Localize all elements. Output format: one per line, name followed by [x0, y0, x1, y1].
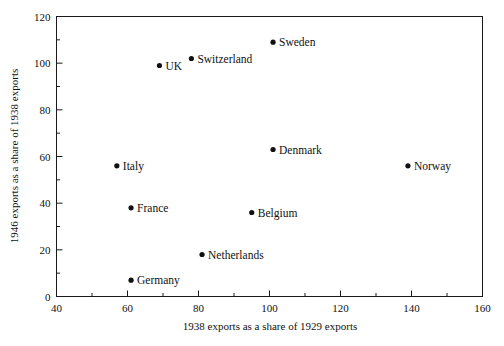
- y-axis-tick-labels: 020406080100120: [34, 11, 51, 303]
- data-point-label: Italy: [123, 160, 144, 173]
- data-point-marker: [189, 56, 194, 61]
- data-point-marker: [199, 252, 204, 257]
- y-tick-label: 0: [45, 291, 51, 303]
- data-point-marker: [405, 163, 410, 168]
- data-point-group: SwedenSwitzerlandUKDenmarkNorwayItalyFra…: [114, 36, 451, 287]
- data-point-marker: [270, 147, 275, 152]
- plot-frame: [57, 17, 483, 297]
- data-point-label: Denmark: [279, 144, 322, 156]
- x-tick-label: 160: [474, 302, 491, 314]
- y-tick-label: 120: [34, 11, 51, 23]
- data-point-marker: [249, 210, 254, 215]
- x-tick-label: 60: [122, 302, 134, 314]
- x-tick-label: 140: [403, 302, 420, 314]
- data-point-label: Belgium: [258, 207, 298, 220]
- data-point[interactable]: Germany: [128, 274, 180, 287]
- data-point[interactable]: UK: [157, 60, 183, 72]
- data-point-label: Germany: [137, 274, 180, 287]
- x-tick-label: 120: [332, 302, 349, 314]
- x-axis-title: 1938 exports as a share of 1929 exports: [183, 320, 357, 332]
- y-tick-label: 20: [40, 244, 52, 256]
- x-tick-label: 80: [193, 302, 205, 314]
- data-point[interactable]: Sweden: [270, 36, 315, 48]
- x-axis-ticks: [57, 291, 483, 297]
- data-point[interactable]: Netherlands: [199, 249, 264, 261]
- y-tick-label: 60: [40, 151, 52, 163]
- data-point[interactable]: Switzerland: [189, 53, 253, 65]
- y-axis-title: 1946 exports as a share of 1938 exports: [8, 69, 20, 243]
- x-axis-tick-labels: 406080100120140160: [51, 302, 491, 314]
- data-point-label: France: [137, 202, 168, 214]
- y-tick-label: 80: [40, 104, 52, 116]
- data-point-marker: [157, 63, 162, 68]
- data-point-marker: [128, 278, 133, 283]
- data-point-marker: [270, 40, 275, 45]
- scatter-plot: 406080100120140160 020406080100120 Swede…: [0, 0, 504, 346]
- data-point-label: Norway: [414, 160, 451, 173]
- x-tick-label: 100: [261, 302, 278, 314]
- y-tick-label: 100: [34, 57, 51, 69]
- data-point[interactable]: Denmark: [270, 144, 322, 156]
- data-point-marker: [128, 205, 133, 210]
- y-axis-ticks: [57, 17, 63, 297]
- data-point-label: Netherlands: [208, 249, 264, 261]
- data-point[interactable]: France: [128, 202, 168, 214]
- y-tick-label: 40: [40, 197, 52, 209]
- data-point-label: Sweden: [279, 36, 316, 48]
- data-point[interactable]: Belgium: [249, 207, 297, 220]
- x-tick-label: 40: [51, 302, 63, 314]
- data-point-label: UK: [165, 60, 182, 72]
- data-point-marker: [114, 163, 119, 168]
- data-point[interactable]: Italy: [114, 160, 144, 173]
- chart-page: 406080100120140160 020406080100120 Swede…: [0, 0, 504, 346]
- data-point-label: Switzerland: [197, 53, 252, 65]
- data-point[interactable]: Norway: [405, 160, 451, 173]
